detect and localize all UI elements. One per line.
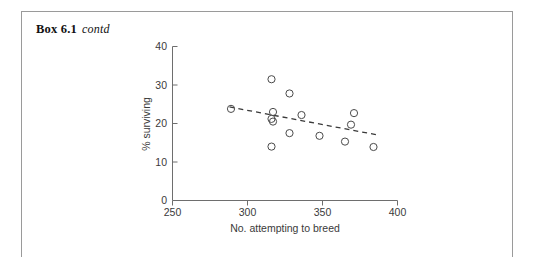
y-tick-label-30: 30: [155, 79, 167, 91]
x-axis-tick-labels: 250 300 350 400: [164, 206, 407, 218]
data-point: [347, 121, 354, 128]
data-point: [370, 143, 377, 150]
data-point: [268, 76, 275, 83]
trend-line: [230, 107, 379, 135]
x-tick-label-350: 350: [314, 206, 332, 218]
data-point: [298, 111, 305, 118]
y-tick-label-20: 20: [155, 117, 167, 129]
data-point: [286, 130, 293, 137]
y-tick-label-10: 10: [155, 156, 167, 168]
data-point: [316, 132, 323, 139]
data-point: [227, 105, 234, 112]
x-tick-label-250: 250: [164, 206, 182, 218]
x-tick-label-300: 300: [239, 206, 257, 218]
y-tick-label-40: 40: [155, 40, 167, 52]
y-axis-tick-labels: 40 30 20 10 0: [155, 40, 167, 206]
data-point: [341, 138, 348, 145]
data-point: [350, 110, 357, 117]
y-axis-title: % surviving: [140, 97, 152, 151]
data-points-group: [227, 76, 377, 151]
y-tick-label-0: 0: [161, 194, 167, 206]
data-point: [269, 108, 276, 115]
x-axis-title: No. attempting to breed: [230, 222, 340, 234]
data-point: [269, 118, 276, 125]
data-point: [268, 143, 275, 150]
data-point: [286, 90, 293, 97]
plot-axes: [173, 47, 398, 206]
x-tick-label-400: 400: [389, 206, 407, 218]
